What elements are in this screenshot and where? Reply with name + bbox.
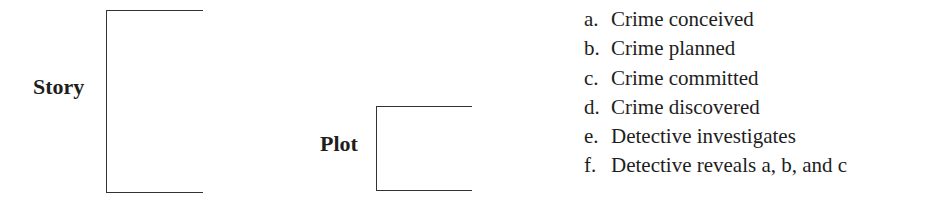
story-label: Story xyxy=(33,76,84,98)
event-list: a.Crime conceived b.Crime planned c.Crim… xyxy=(584,5,847,181)
list-item: c.Crime committed xyxy=(584,64,847,93)
story-bracket xyxy=(106,10,203,193)
list-item: a.Crime conceived xyxy=(584,5,847,34)
plot-label: Plot xyxy=(320,133,358,155)
plot-bracket xyxy=(376,106,472,191)
list-item: e.Detective investigates xyxy=(584,122,847,151)
list-item: d.Crime discovered xyxy=(584,93,847,122)
list-item: b.Crime planned xyxy=(584,34,847,63)
list-item: f.Detective reveals a, b, and c xyxy=(584,151,847,180)
